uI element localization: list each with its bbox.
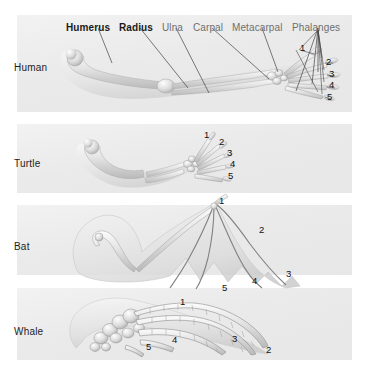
panel-background xyxy=(17,205,352,275)
row-label-whale: Whale xyxy=(14,326,43,337)
digit-number-whale-4: 4 xyxy=(172,335,177,345)
digit-number-human-1: 1 xyxy=(300,43,305,53)
digit-number-human-3: 3 xyxy=(329,69,334,79)
bone-label-phalanges: Phalanges xyxy=(292,22,340,33)
homologous-limbs-figure: HumerusRadiusUlnaCarpalMetacarpalPhalang… xyxy=(0,0,366,368)
panel-bat xyxy=(17,205,352,275)
digit-number-turtle-4: 4 xyxy=(230,159,235,169)
digit-number-turtle-2: 2 xyxy=(219,137,224,147)
row-label-turtle: Turtle xyxy=(14,158,40,169)
digit-number-whale-3: 3 xyxy=(232,334,237,344)
digit-number-human-2: 2 xyxy=(326,57,331,67)
bone-label-humerus: Humerus xyxy=(66,22,110,33)
row-label-bat: Bat xyxy=(14,241,30,252)
bone-label-ulna: Ulna xyxy=(162,22,183,33)
digit-number-human-4: 4 xyxy=(329,80,334,90)
digit-number-bat-1: 1 xyxy=(219,196,224,206)
digit-number-human-5: 5 xyxy=(327,92,332,102)
digit-number-turtle-5: 5 xyxy=(228,171,233,181)
bone-label-radius: Radius xyxy=(119,22,153,33)
digit-number-bat-2: 2 xyxy=(259,225,264,235)
digit-number-turtle-1: 1 xyxy=(204,130,209,140)
digit-number-whale-1: 1 xyxy=(180,297,185,307)
panel-turtle xyxy=(17,124,352,193)
digit-number-whale-2: 2 xyxy=(266,345,271,355)
digit-number-bat-3: 3 xyxy=(286,269,291,279)
row-label-human: Human xyxy=(14,62,47,73)
digit-number-whale-5: 5 xyxy=(146,342,151,352)
digit-number-turtle-3: 3 xyxy=(227,148,232,158)
digit-number-bat-5: 5 xyxy=(222,283,227,293)
digit-number-bat-4: 4 xyxy=(252,276,257,286)
panel-background xyxy=(17,124,352,193)
bone-label-metacarpal: Metacarpal xyxy=(232,22,282,33)
bone-label-carpal: Carpal xyxy=(193,22,223,33)
